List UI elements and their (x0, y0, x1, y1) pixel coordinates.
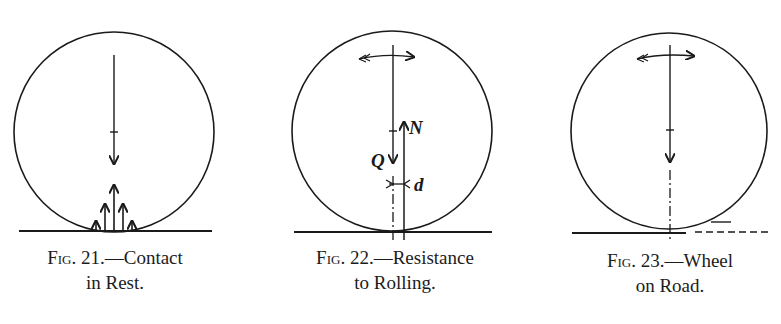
caption-line-2: to Rolling. (285, 270, 505, 295)
caption-fig-21: Fig. 21.—Contact in Rest. (10, 245, 220, 295)
caption-line-1: —Resistance (374, 247, 474, 268)
caption-line-1: —Contact (105, 247, 183, 268)
figure-23-wheel-on-road (571, 33, 771, 240)
rotation-arrow-tail (359, 54, 370, 62)
fig-number: 22. (350, 247, 374, 268)
caption-fig-22: Fig. 22.—Resistance to Rolling. (285, 245, 505, 295)
caption-line-2: in Rest. (10, 270, 220, 295)
fig-prefix: Fig. (607, 250, 636, 271)
label-N: N (408, 117, 424, 138)
label-Q: Q (371, 150, 385, 171)
label-d: d (414, 174, 424, 195)
figure-21-contact-in-rest (14, 32, 214, 232)
fig-number: 21. (81, 247, 105, 268)
fig-prefix: Fig. (47, 247, 76, 268)
fig-number: 23. (641, 250, 665, 271)
fig-prefix: Fig. (316, 247, 345, 268)
figure-22-resistance-to-rolling (292, 31, 492, 240)
wheel-circle (571, 33, 767, 229)
caption-fig-23: Fig. 23.—Wheel on Road. (570, 248, 770, 298)
caption-line-1: —Wheel (664, 250, 733, 271)
caption-line-2: on Road. (570, 273, 770, 298)
contact-pressure-arrows (96, 185, 132, 231)
rotation-arrow-tail (637, 54, 648, 62)
